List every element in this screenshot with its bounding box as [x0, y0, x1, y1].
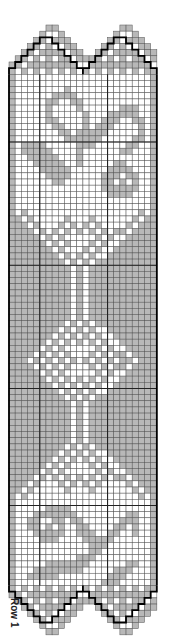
chart-cell [64, 308, 70, 314]
chart-cell [89, 197, 95, 203]
chart-cell [151, 278, 157, 284]
chart-cell [64, 74, 70, 80]
chart-cell [15, 142, 21, 148]
chart-cell [89, 222, 95, 228]
chart-cell [9, 518, 15, 524]
chart-cell [21, 419, 27, 425]
chart-cell [27, 117, 33, 123]
chart-cell [101, 345, 107, 351]
chart-cell [108, 493, 114, 499]
chart-cell [132, 407, 138, 413]
chart-cell [120, 376, 126, 382]
chart-cell [21, 549, 27, 555]
chart-cell [52, 438, 58, 444]
chart-cell [145, 204, 151, 210]
chart-cell [89, 308, 95, 314]
chart-cell [89, 130, 95, 136]
chart-cell [126, 25, 132, 31]
chart-cell [89, 444, 95, 450]
chart-cell [52, 327, 58, 333]
chart-cell [151, 290, 157, 296]
chart-cell [114, 382, 120, 388]
chart-cell [64, 302, 70, 308]
chart-cell [27, 321, 33, 327]
chart-cell [52, 586, 58, 592]
chart-cell [132, 228, 138, 234]
chart-cell [58, 241, 64, 247]
chart-cell [126, 68, 132, 74]
chart-cell [132, 154, 138, 160]
chart-cell [21, 592, 27, 598]
chart-cell [114, 425, 120, 431]
chart-cell [15, 555, 21, 561]
chart-cell [58, 216, 64, 222]
chart-cell [15, 302, 21, 308]
chart-cell [40, 450, 46, 456]
chart-cell [15, 179, 21, 185]
chart-cell [64, 259, 70, 265]
chart-cell [95, 512, 101, 518]
chart-cell [120, 536, 126, 542]
chart-cell [64, 462, 70, 468]
chart-cell [58, 610, 64, 616]
chart-cell [40, 536, 46, 542]
chart-cell [151, 105, 157, 111]
chart-cell [126, 117, 132, 123]
chart-cell [9, 142, 15, 148]
chart-cell [145, 117, 151, 123]
chart-cell [126, 87, 132, 93]
chart-cell [40, 302, 46, 308]
chart-cell [120, 228, 126, 234]
chart-cell [15, 549, 21, 555]
chart-cell [108, 333, 114, 339]
chart-cell [114, 117, 120, 123]
chart-cell [145, 530, 151, 536]
chart-cell [114, 278, 120, 284]
chart-cell [21, 376, 27, 382]
chart-cell [126, 542, 132, 548]
chart-cell [40, 462, 46, 468]
chart-cell [120, 438, 126, 444]
chart-cell [71, 419, 77, 425]
chart-cell [21, 469, 27, 475]
chart-cell [9, 339, 15, 345]
chart-cell [89, 512, 95, 518]
chart-cell [52, 80, 58, 86]
chart-cell [77, 444, 83, 450]
chart-cell [52, 407, 58, 413]
chart-cell [132, 278, 138, 284]
chart-cell [15, 124, 21, 130]
chart-cell [71, 493, 77, 499]
chart-cell [15, 241, 21, 247]
chart-cell [77, 265, 83, 271]
chart-cell [83, 290, 89, 296]
chart-cell [40, 56, 46, 62]
chart-cell [83, 68, 89, 74]
chart-cell [71, 339, 77, 345]
chart-cell [27, 247, 33, 253]
chart-cell [52, 25, 58, 31]
chart-cell [114, 505, 120, 511]
chart-cell [64, 505, 70, 511]
chart-cell [83, 493, 89, 499]
chart-cell [132, 499, 138, 505]
chart-cell [15, 425, 21, 431]
chart-cell [151, 536, 157, 542]
chart-cell [71, 50, 77, 56]
chart-cell [34, 419, 40, 425]
chart-cell [9, 573, 15, 579]
chart-cell [151, 296, 157, 302]
chart-cell [40, 284, 46, 290]
chart-cell [58, 499, 64, 505]
chart-cell [64, 142, 70, 148]
chart-cell [46, 179, 52, 185]
chart-cell [114, 216, 120, 222]
chart-cell [27, 50, 33, 56]
chart-cell [71, 117, 77, 123]
chart-cell [126, 610, 132, 616]
chart-cell [15, 278, 21, 284]
chart-cell [114, 43, 120, 49]
chart-cell [151, 247, 157, 253]
chart-cell [95, 191, 101, 197]
chart-cell [27, 518, 33, 524]
